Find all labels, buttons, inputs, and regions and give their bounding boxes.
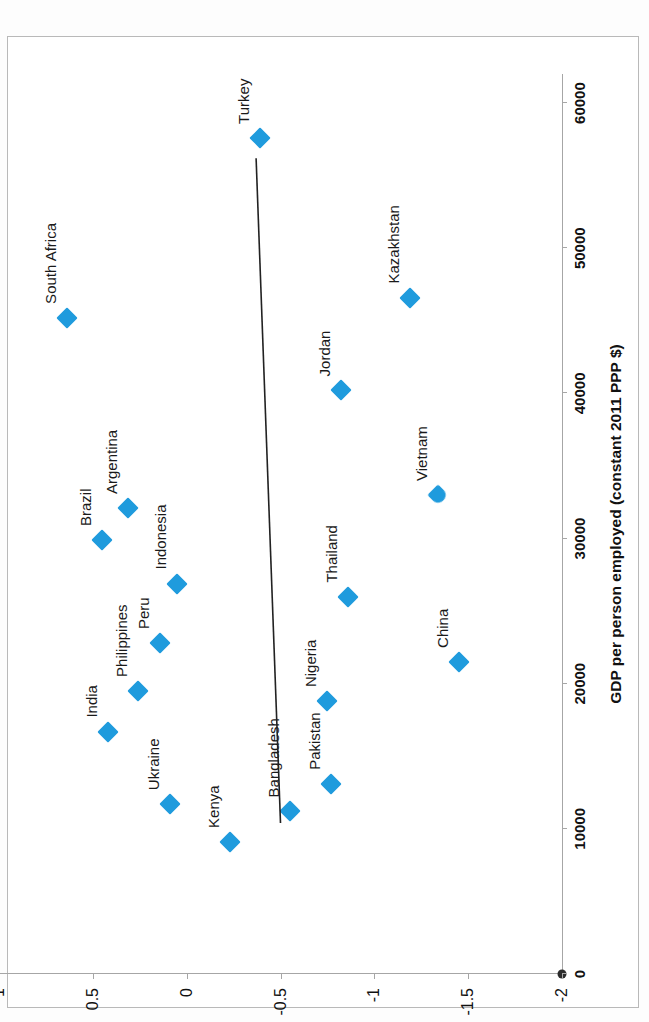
y-tick [562, 974, 563, 979]
y-tick-label: -2 [553, 988, 571, 1002]
y-tick-label: -1 [365, 988, 383, 1002]
y-tick-label: 0.5 [84, 988, 102, 1010]
y-tick-label: 1 [0, 988, 8, 997]
y-tick-label: -1.5 [459, 988, 477, 1016]
y-tick-label: 0 [178, 988, 196, 997]
y-tick-label: -0.5 [272, 988, 290, 1016]
y-tick [374, 974, 375, 979]
rotated-chart-stage: 0100002000030000400005000060000 10.50-0.… [0, 2, 631, 974]
trendline [0, 2, 631, 974]
y-tick [281, 974, 282, 979]
y-tick [468, 974, 469, 979]
scanned-page: 0100002000030000400005000060000 10.50-0.… [0, 0, 649, 1022]
y-tick [93, 974, 94, 979]
y-tick [187, 974, 188, 979]
x-axis-title: GDP per person employed (constant 2011 P… [607, 344, 625, 704]
